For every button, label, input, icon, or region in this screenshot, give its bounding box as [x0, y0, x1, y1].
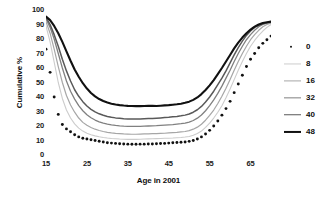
x-tick-65: 65: [239, 160, 263, 168]
y-tick-50: 50: [36, 79, 44, 87]
legend-label: 32: [306, 93, 315, 102]
legend-line-icon: [284, 63, 301, 64]
y-tick-20: 20: [36, 122, 44, 130]
y-tick-0: 0: [40, 151, 44, 159]
x-axis-title: Age in 2001: [46, 176, 271, 185]
y-tick-80: 80: [36, 35, 44, 43]
y-tick-30: 30: [36, 108, 44, 116]
legend-swatch-48: [284, 127, 301, 137]
series-8: [46, 25, 271, 140]
x-axis-tick-labels: 152535455565: [0, 160, 290, 174]
legend-line-icon: [284, 97, 301, 98]
y-tick-100: 100: [32, 6, 44, 14]
legend-item-16[interactable]: 16: [284, 72, 328, 89]
legend-swatch-32: [284, 93, 301, 103]
x-tick-15: 15: [34, 160, 58, 168]
legend-item-48[interactable]: 48: [284, 123, 328, 140]
x-tick-35: 35: [116, 160, 140, 168]
legend-swatch-0: [284, 42, 301, 52]
legend-item-8[interactable]: 8: [284, 55, 328, 72]
legend-label: 48: [306, 127, 315, 136]
legend-item-32[interactable]: 32: [284, 89, 328, 106]
legend-swatch-40: [284, 110, 301, 120]
x-tick-55: 55: [198, 160, 222, 168]
legend: 0816324048: [284, 38, 328, 140]
y-tick-70: 70: [36, 50, 44, 58]
legend-item-0[interactable]: 0: [284, 38, 328, 55]
legend-item-40[interactable]: 40: [284, 106, 328, 123]
y-axis-tick-labels: 0102030405060708090100: [0, 0, 44, 160]
x-tick-25: 25: [75, 160, 99, 168]
legend-swatch-8: [284, 59, 301, 69]
series-40: [46, 17, 271, 119]
legend-label: 0: [306, 42, 310, 51]
legend-label: 40: [306, 110, 315, 119]
legend-label: 16: [306, 76, 315, 85]
series-layer: [46, 17, 271, 146]
chart-canvas: [46, 10, 271, 155]
legend-label: 8: [306, 59, 310, 68]
y-tick-60: 60: [36, 64, 44, 72]
legend-line-icon: [284, 130, 301, 132]
y-tick-90: 90: [36, 21, 44, 29]
y-tick-40: 40: [36, 93, 44, 101]
legend-swatch-16: [284, 76, 301, 86]
y-tick-10: 10: [36, 137, 44, 145]
plot-area: [46, 10, 271, 155]
series-48: [46, 17, 271, 107]
legend-line-icon: [284, 80, 301, 81]
chart-figure: Cumulative % 0102030405060708090100 1525…: [0, 0, 329, 209]
legend-dot-icon: [290, 45, 292, 47]
x-tick-45: 45: [157, 160, 181, 168]
legend-line-icon: [284, 114, 301, 116]
